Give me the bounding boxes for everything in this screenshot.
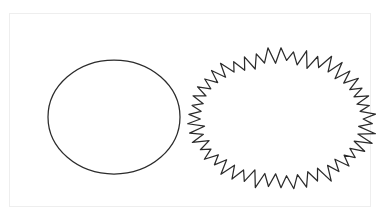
- smooth-ellipse-shape: [48, 60, 180, 174]
- figure-canvas: [0, 0, 389, 221]
- figure-panel: [0, 0, 389, 221]
- spiky-blob-shape: [188, 48, 376, 189]
